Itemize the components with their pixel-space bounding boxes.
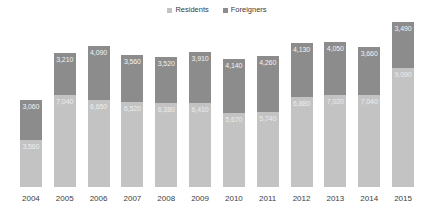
bar-slot: 4,2605,740 xyxy=(251,22,285,187)
x-axis-tick-labels: 2004200520062007200820092010201120122013… xyxy=(14,191,420,207)
bar-segment-residents[interactable]: 9,090 xyxy=(392,68,414,187)
bar-segment-foreigners[interactable]: 3,210 xyxy=(54,53,76,95)
stacked-bar[interactable]: 3,9106,410 xyxy=(189,22,211,187)
bar-segment-residents[interactable]: 7,020 xyxy=(324,95,346,187)
bar-segment-residents[interactable]: 7,040 xyxy=(358,95,380,187)
bar-slot: 3,5606,520 xyxy=(115,22,149,187)
bar-value-label-residents: 7,020 xyxy=(327,98,344,105)
bar-segment-residents[interactable]: 6,650 xyxy=(88,100,110,187)
bar-segment-residents[interactable]: 6,380 xyxy=(155,103,177,187)
bar-value-label-foreigners: 3,910 xyxy=(192,55,209,62)
bar-segment-foreigners[interactable]: 3,560 xyxy=(121,55,143,102)
bar-slot: 3,9106,410 xyxy=(183,22,217,187)
bar-segment-foreigners[interactable]: 3,660 xyxy=(358,47,380,95)
bar-slot: 3,4909,090 xyxy=(386,22,420,187)
bar-slot: 4,1306,880 xyxy=(285,22,319,187)
bar-segment-residents[interactable]: 6,520 xyxy=(121,102,143,187)
legend-item-foreigners[interactable]: Foreigners xyxy=(223,6,267,14)
x-axis-tick-2014: 2014 xyxy=(352,191,386,207)
x-axis-tick-2015: 2015 xyxy=(386,191,420,207)
plot-area: 3,0603,5603,2107,0404,0906,6503,5606,520… xyxy=(14,22,420,187)
bar-value-label-foreigners: 3,210 xyxy=(56,56,73,63)
bar-value-label-residents: 5,740 xyxy=(259,115,276,122)
bar-value-label-residents: 6,650 xyxy=(90,103,107,110)
bar-segment-foreigners[interactable]: 3,520 xyxy=(155,57,177,103)
bar-segment-residents[interactable]: 6,410 xyxy=(189,103,211,187)
stacked-bar[interactable]: 4,0906,650 xyxy=(88,22,110,187)
bar-slot: 3,5206,380 xyxy=(149,22,183,187)
bar-value-label-foreigners: 4,130 xyxy=(293,46,310,53)
x-axis-tick-2012: 2012 xyxy=(285,191,319,207)
stacked-bar[interactable]: 4,1306,880 xyxy=(291,22,313,187)
bar-segment-foreigners[interactable]: 3,910 xyxy=(189,52,211,103)
bar-segment-foreigners[interactable]: 4,260 xyxy=(257,56,279,112)
bar-segment-residents[interactable]: 5,670 xyxy=(223,113,245,187)
stacked-bar-chart: Residents Foreigners 3,0603,5603,2107,04… xyxy=(0,0,434,220)
bar-slot: 4,0507,020 xyxy=(318,22,352,187)
stacked-bar[interactable]: 4,2605,740 xyxy=(257,22,279,187)
bar-value-label-foreigners: 4,050 xyxy=(327,45,344,52)
bar-value-label-foreigners: 3,490 xyxy=(395,25,412,32)
bar-value-label-residents: 6,380 xyxy=(158,106,175,113)
square-swatch-icon xyxy=(167,8,172,13)
bar-segment-foreigners[interactable]: 4,090 xyxy=(88,46,110,100)
x-axis-tick-2013: 2013 xyxy=(318,191,352,207)
bar-value-label-foreigners: 3,520 xyxy=(158,60,175,67)
x-axis-tick-2009: 2009 xyxy=(183,191,217,207)
bar-value-label-foreigners: 3,660 xyxy=(361,50,378,57)
x-axis-tick-2008: 2008 xyxy=(149,191,183,207)
bar-value-label-foreigners: 4,140 xyxy=(225,62,242,69)
x-axis-tick-2006: 2006 xyxy=(82,191,116,207)
bar-value-label-foreigners: 4,260 xyxy=(259,59,276,66)
stacked-bar[interactable]: 4,1405,670 xyxy=(223,22,245,187)
bar-value-label-residents: 5,670 xyxy=(225,116,242,123)
bar-value-label-residents: 7,040 xyxy=(361,98,378,105)
bar-segment-foreigners[interactable]: 3,060 xyxy=(20,100,42,140)
bar-value-label-foreigners: 3,060 xyxy=(22,103,39,110)
stacked-bar[interactable]: 3,2107,040 xyxy=(54,22,76,187)
bar-segment-foreigners[interactable]: 4,050 xyxy=(324,42,346,95)
bar-segment-residents[interactable]: 3,560 xyxy=(20,140,42,187)
bar-value-label-foreigners: 4,090 xyxy=(90,49,107,56)
bar-value-label-residents: 6,520 xyxy=(124,105,141,112)
bar-slot: 3,6607,040 xyxy=(352,22,386,187)
stacked-bar[interactable]: 3,5206,380 xyxy=(155,22,177,187)
bar-segment-residents[interactable]: 5,740 xyxy=(257,112,279,187)
legend-item-residents[interactable]: Residents xyxy=(167,6,208,14)
x-axis-tick-2007: 2007 xyxy=(115,191,149,207)
stacked-bar[interactable]: 3,6607,040 xyxy=(358,22,380,187)
bar-segment-foreigners[interactable]: 4,130 xyxy=(291,43,313,97)
legend-label-foreigners: Foreigners xyxy=(231,6,267,14)
stacked-bar[interactable]: 3,4909,090 xyxy=(392,22,414,187)
x-axis-tick-2011: 2011 xyxy=(251,191,285,207)
bar-slot: 4,0906,650 xyxy=(82,22,116,187)
x-axis-tick-2005: 2005 xyxy=(48,191,82,207)
bar-value-label-residents: 3,560 xyxy=(22,143,39,150)
stacked-bar[interactable]: 4,0507,020 xyxy=(324,22,346,187)
bar-slot: 3,2107,040 xyxy=(48,22,82,187)
stacked-bar[interactable]: 3,5606,520 xyxy=(121,22,143,187)
bar-value-label-residents: 7,040 xyxy=(56,98,73,105)
x-axis-tick-2004: 2004 xyxy=(14,191,48,207)
bar-value-label-residents: 6,410 xyxy=(192,106,209,113)
bar-slot: 3,0603,560 xyxy=(14,22,48,187)
bar-segment-foreigners[interactable]: 4,140 xyxy=(223,59,245,113)
bar-value-label-residents: 9,090 xyxy=(395,71,412,78)
legend-label-residents: Residents xyxy=(175,6,208,14)
bar-segment-residents[interactable]: 7,040 xyxy=(54,95,76,187)
bar-slot: 4,1405,670 xyxy=(217,22,251,187)
bar-value-label-foreigners: 3,560 xyxy=(124,58,141,65)
square-swatch-icon xyxy=(223,8,228,13)
chart-legend: Residents Foreigners xyxy=(0,4,434,16)
bar-value-label-residents: 6,880 xyxy=(293,100,310,107)
bar-segment-residents[interactable]: 6,880 xyxy=(291,97,313,187)
bar-segment-foreigners[interactable]: 3,490 xyxy=(392,22,414,68)
stacked-bar[interactable]: 3,0603,560 xyxy=(20,22,42,187)
x-axis-tick-2010: 2010 xyxy=(217,191,251,207)
